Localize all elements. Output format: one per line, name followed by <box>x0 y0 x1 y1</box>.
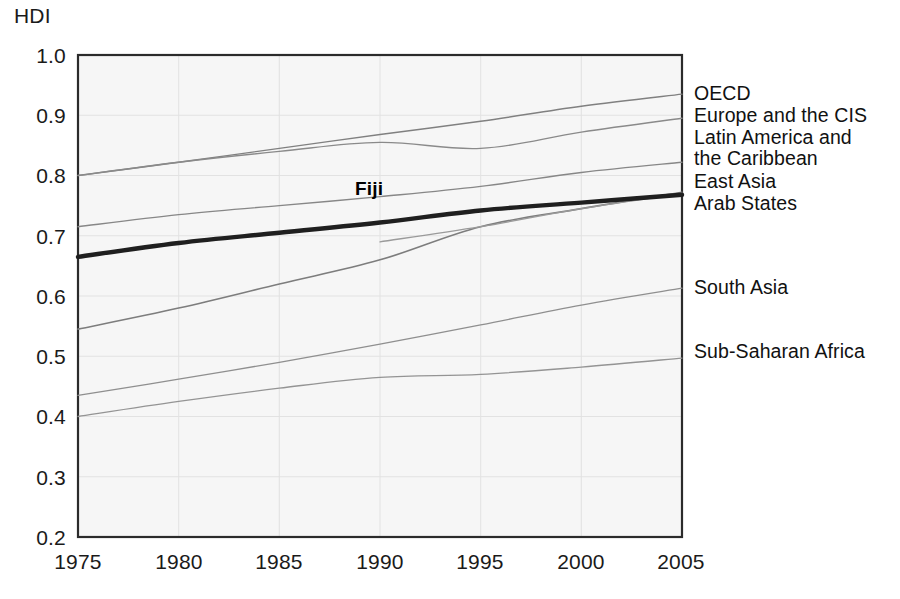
annotation-fiji: Fiji <box>355 179 383 198</box>
series-label-south-asia: South Asia <box>694 277 788 299</box>
series-label-latin-america-line1: Latin America and <box>694 127 852 149</box>
plot-area <box>0 0 900 599</box>
series-label-sub-saharan-africa: Sub-Saharan Africa <box>694 341 865 363</box>
series-label-arab-states: Arab States <box>694 193 797 215</box>
series-label-latin-america-line2: the Caribbean <box>694 148 818 170</box>
hdi-trend-chart: HDI 1.0 0.9 0.8 0.7 0.6 0.5 0.4 0.3 0.2 … <box>0 0 900 599</box>
series-label-oecd: OECD <box>694 83 751 105</box>
series-label-europe-and-the-cis: Europe and the CIS <box>694 105 867 127</box>
series-label-east-asia: East Asia <box>694 171 776 193</box>
